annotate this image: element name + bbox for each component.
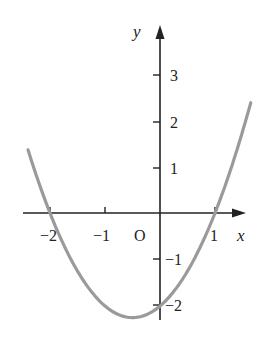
y-tick-label: 3	[170, 67, 178, 84]
parabola-curve	[28, 103, 251, 318]
y-tick-label: 2	[170, 114, 178, 131]
x-ticks	[50, 207, 215, 213]
origin-label: O	[134, 227, 146, 244]
y-tick-label: −1	[165, 251, 182, 268]
y-axis-label: y	[131, 22, 141, 41]
x-axis-arrow-icon	[232, 209, 246, 218]
parabola-chart: −2 −1 1 O x y 3 2 1 −1 −2	[0, 0, 265, 338]
y-ticks	[153, 75, 160, 305]
x-tick-label: 1	[210, 227, 218, 244]
x-tick-label: −1	[93, 227, 110, 244]
y-tick-label: −2	[165, 297, 182, 314]
x-tick-label: −2	[40, 227, 57, 244]
x-axis-label: x	[236, 226, 245, 245]
y-axis-arrow-icon	[156, 25, 165, 39]
y-tick-label: 1	[170, 160, 178, 177]
